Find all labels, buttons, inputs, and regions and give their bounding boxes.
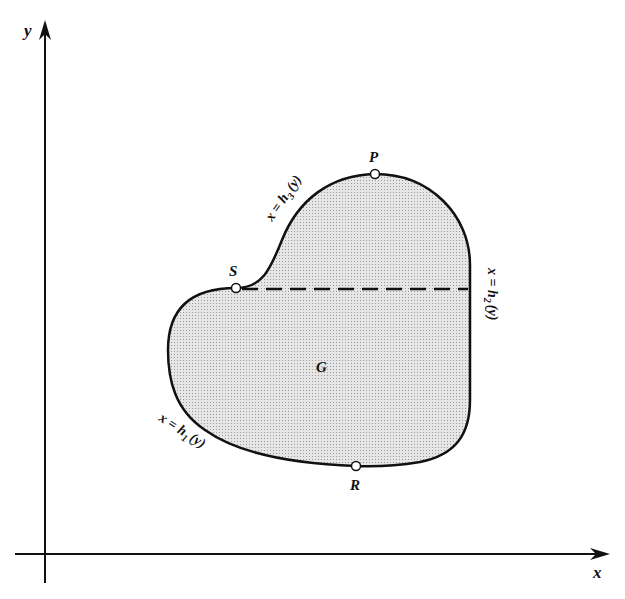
curve-h2-label: x = h2(y) <box>482 267 500 320</box>
x-axis: x <box>15 548 610 582</box>
point-s <box>232 284 241 293</box>
y-axis: y <box>22 20 51 583</box>
region-label: G <box>316 359 327 375</box>
point-s-label: S <box>229 263 237 279</box>
diagram-canvas: y x P S R G x = h3(y) x = h2(y) x = h1(y… <box>0 0 625 599</box>
point-p <box>371 170 380 179</box>
x-axis-label: x <box>592 563 602 582</box>
point-p-label: P <box>369 149 379 165</box>
point-r <box>352 462 361 471</box>
y-axis-label: y <box>22 21 32 40</box>
point-r-label: R <box>349 477 360 493</box>
region-g <box>168 174 470 466</box>
